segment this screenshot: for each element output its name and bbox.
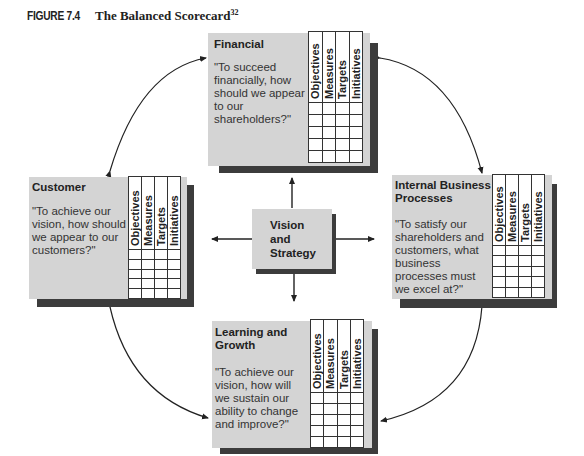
col-measures: Measures (324, 338, 336, 389)
vision-line1: Vision (270, 218, 316, 232)
col-measures: Measures (323, 48, 335, 99)
col-objectives: Objectives (311, 333, 323, 389)
card-question: "To achieve our vision, how will we sust… (215, 366, 307, 431)
col-targets: Targets (338, 350, 350, 389)
col-measures: Measures (506, 191, 518, 242)
scorecard-table: Objectives Measures Targets Initiatives (492, 174, 545, 298)
card-question: "To succeed financially, how should we a… (214, 61, 306, 126)
card-title: Learning and Growth (215, 326, 305, 352)
scorecard-table: Objectives Measures Targets Initiatives (310, 319, 364, 448)
col-objectives: Objectives (309, 43, 321, 99)
arrow-customer-learning (110, 307, 208, 418)
col-objectives: Objectives (129, 190, 141, 246)
card-title: Financial (214, 38, 264, 51)
scorecard-table: Objectives Measures Targets Initiatives (128, 176, 181, 299)
card-question: "To satisfy our shareholders and custome… (395, 218, 487, 296)
col-targets: Targets (336, 60, 348, 99)
vision-label: Vision and Strategy (270, 218, 316, 260)
arrow-internal-learning (381, 306, 482, 421)
vision-line2: and (270, 232, 316, 246)
col-initiatives: Initiatives (351, 338, 363, 389)
card-question: "To achieve our vision, how should we ap… (32, 205, 127, 257)
arrow-customer-financial (110, 58, 206, 171)
col-initiatives: Initiatives (168, 195, 180, 246)
col-initiatives: Initiatives (350, 48, 362, 99)
col-targets: Targets (155, 207, 167, 246)
col-objectives: Objectives (493, 186, 505, 242)
arrow-financial-internal (380, 58, 482, 173)
card-title: Internal Business Processes (395, 179, 493, 205)
col-targets: Targets (519, 203, 531, 242)
col-initiatives: Initiatives (532, 191, 544, 242)
vision-line3: Strategy (270, 246, 316, 260)
scorecard-table: Objectives Measures Targets Initiatives (308, 31, 363, 163)
col-measures: Measures (142, 195, 154, 246)
card-title: Customer (32, 181, 86, 194)
